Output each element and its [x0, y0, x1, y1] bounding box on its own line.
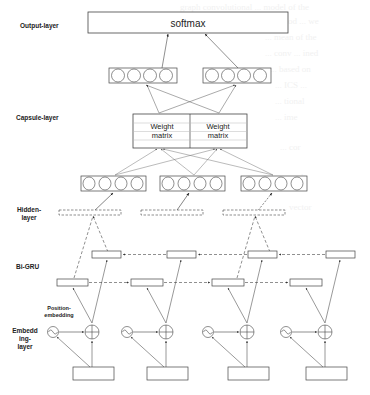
adder-to-gru-arrows: [73, 260, 340, 323]
word-embedding-box: [73, 367, 114, 380]
svg-text:matrix: matrix: [152, 131, 173, 140]
sine-wave-icon: [122, 327, 133, 338]
softmax-box: softmax: [88, 12, 288, 33]
gru-forward-cell-3: [212, 279, 244, 286]
word-embedding-box: [228, 367, 269, 380]
gru-backward-cell-3: [248, 251, 277, 258]
layer-label-embedding: Embedd: [12, 327, 38, 334]
adder-plus-icon: [240, 325, 254, 339]
embedding-timestep-2: [122, 325, 189, 380]
word-embedding-box: [147, 367, 188, 380]
sine-wave-icon: [48, 327, 59, 338]
adder-plus-icon: [85, 325, 99, 339]
primary-capsule-2: [160, 176, 225, 191]
layer-label-output: Output-layer: [20, 22, 59, 30]
arrow-capsule2-to-softmax: [205, 34, 238, 68]
layer-label-hidden: Hidden-: [17, 206, 41, 213]
gru-backward-cell-4: [326, 251, 355, 258]
svg-text:Weight: Weight: [150, 122, 174, 131]
svg-text:matrix: matrix: [208, 131, 229, 140]
gru-forward-cell-1: [57, 279, 88, 286]
weight-matrix-2: Weight matrix: [206, 122, 230, 140]
hidden-unit-1: [59, 210, 121, 215]
layer-label-capsule: Capsule-layer: [16, 114, 59, 122]
gru-backward-cell-2: [167, 251, 196, 258]
embedding-timestep-3: [203, 325, 270, 380]
output-capsule-1: [109, 68, 177, 83]
routing-arrows-top: [146, 85, 236, 113]
layer-label-bigru: Bi-GRU: [16, 263, 39, 270]
weight-matrix-1: Weight matrix: [150, 122, 174, 140]
softmax-label: softmax: [170, 18, 205, 29]
layer-label-embedding-3: layer: [17, 343, 33, 351]
bigru-backward-row: [92, 251, 355, 258]
bigru-forward-row: [57, 279, 322, 286]
gru-backward-cell-1: [92, 251, 121, 258]
primary-capsule-1: [81, 176, 146, 191]
embedding-timestep-4: [281, 325, 348, 380]
gru-forward-cell-4: [290, 279, 322, 286]
hidden-unit-2: [141, 210, 203, 215]
label-position-embedding-2: embedding: [44, 312, 73, 318]
adder-plus-icon: [159, 325, 173, 339]
sine-wave-icon: [281, 327, 292, 338]
adder-plus-icon: [318, 325, 332, 339]
routing-arrows-bottom: [115, 149, 273, 175]
svg-text:Weight: Weight: [206, 122, 230, 131]
bigru-to-hidden-connections: [74, 216, 270, 278]
layer-label-hidden-2: layer: [21, 214, 37, 222]
word-embedding-box: [306, 367, 347, 380]
label-position-embedding: Position-: [47, 305, 71, 311]
embedding-timestep-1: [48, 325, 115, 380]
arrow-capsule1-to-softmax: [162, 34, 168, 68]
weight-matrix-block: Weight matrix Weight matrix: [133, 114, 247, 148]
sine-wave-icon: [203, 327, 214, 338]
hidden-unit-3: [223, 210, 285, 215]
gru-forward-cell-2: [131, 279, 163, 286]
model-architecture-diagram: graph convolutional ... model of the met…: [0, 0, 370, 395]
output-capsule-2: [203, 68, 271, 83]
layer-label-embedding-2: ing-: [19, 335, 31, 343]
primary-capsule-3: [241, 176, 307, 191]
